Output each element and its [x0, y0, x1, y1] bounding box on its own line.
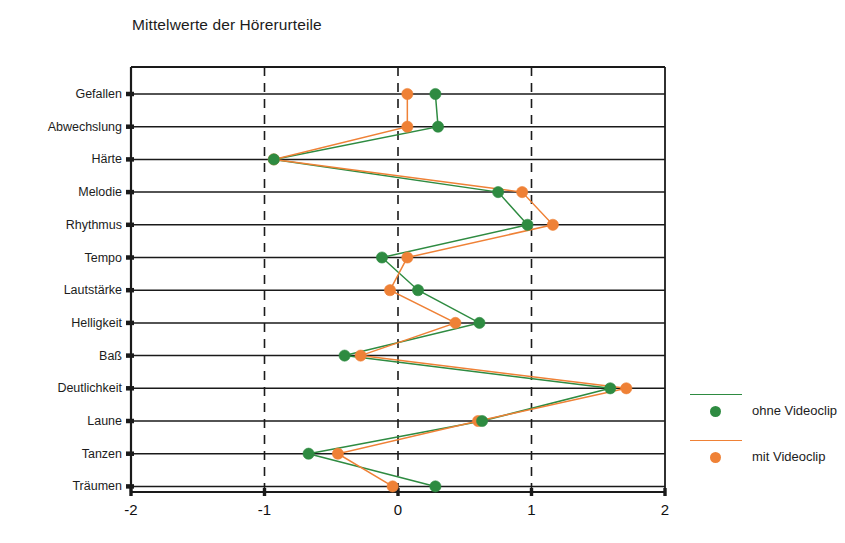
- data-point: [430, 88, 441, 99]
- x-axis-tick-label: 1: [527, 501, 535, 518]
- data-point: [384, 285, 395, 296]
- data-point: [387, 481, 398, 492]
- x-axis-tick-label: -2: [124, 501, 137, 518]
- x-axis-tick-label: 0: [394, 501, 402, 518]
- data-point: [517, 187, 528, 198]
- data-point: [522, 219, 533, 230]
- y-axis-label: Lautstärke: [0, 283, 122, 297]
- data-point: [412, 285, 423, 296]
- data-point: [547, 219, 558, 230]
- x-axis-tick-label: 2: [661, 501, 669, 518]
- data-point: [402, 252, 413, 263]
- data-point: [474, 317, 485, 328]
- data-point: [621, 383, 632, 394]
- y-axis-label: Härte: [0, 152, 122, 166]
- y-axis-label: Deutlichkeit: [0, 381, 122, 395]
- y-axis-label: Rhythmus: [0, 218, 122, 232]
- vertical-gridlines: [131, 67, 665, 492]
- legend-marker-orange: [710, 452, 721, 463]
- x-axis-tick-label: -1: [258, 501, 271, 518]
- legend-line-green: [690, 394, 742, 395]
- y-axis-label: Träumen: [0, 479, 122, 493]
- y-axis-label: Helligkeit: [0, 316, 122, 330]
- legend-marker-green: [710, 406, 721, 417]
- legend-item-ohne-videoclip: ohne Videoclip: [690, 388, 840, 434]
- data-point: [376, 252, 387, 263]
- y-axis-label: Tanzen: [0, 447, 122, 461]
- chart-legend: ohne Videoclip mit Videoclip: [690, 388, 840, 480]
- axis-ticks: [126, 94, 665, 496]
- data-point: [493, 187, 504, 198]
- legend-label-ohne-videoclip: ohne Videoclip: [752, 403, 837, 418]
- y-axis-label: Baß: [0, 349, 122, 363]
- data-point: [332, 448, 343, 459]
- y-axis-label: Gefallen: [0, 87, 122, 101]
- data-point: [402, 88, 413, 99]
- data-point: [339, 350, 350, 361]
- data-point: [430, 481, 441, 492]
- data-point: [268, 154, 279, 165]
- y-axis-label: Abwechslung: [0, 120, 122, 134]
- legend-item-mit-videoclip: mit Videoclip: [690, 434, 840, 480]
- data-point: [477, 415, 488, 426]
- legend-label-mit-videoclip: mit Videoclip: [752, 449, 825, 464]
- y-axis-label: Laune: [0, 414, 122, 428]
- chart-figure: Mittelwerte der Hörerurteile GefallenAbw…: [0, 0, 845, 543]
- data-point: [432, 121, 443, 132]
- y-axis-label: Tempo: [0, 251, 122, 265]
- data-point: [303, 448, 314, 459]
- y-axis-label: Melodie: [0, 185, 122, 199]
- data-point: [402, 121, 413, 132]
- data-point: [450, 317, 461, 328]
- data-point: [605, 383, 616, 394]
- legend-line-orange: [690, 440, 742, 441]
- data-point: [355, 350, 366, 361]
